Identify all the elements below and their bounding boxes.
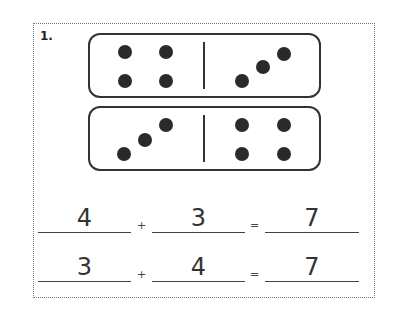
pip: [235, 147, 249, 161]
pip: [159, 45, 173, 59]
addend1-blank[interactable]: 4: [38, 204, 131, 233]
sum-blank[interactable]: 7: [265, 253, 359, 282]
equation-row-2: 3 + 4 = 7: [0, 242, 396, 282]
plus-sign: +: [137, 219, 146, 233]
pip: [118, 74, 132, 88]
plus-sign: +: [137, 268, 146, 282]
pip: [159, 118, 173, 132]
domino-divider: [203, 115, 205, 162]
pip: [138, 133, 152, 147]
sum-blank[interactable]: 7: [265, 204, 359, 233]
domino-divider: [203, 42, 205, 89]
addend2-blank[interactable]: 3: [152, 204, 245, 233]
addend1-blank[interactable]: 3: [38, 253, 131, 282]
equation-row-1: 4 + 3 = 7: [0, 193, 396, 233]
domino-1: [88, 33, 321, 98]
pip: [277, 47, 291, 61]
pip: [235, 118, 249, 132]
pip: [117, 147, 131, 161]
pip: [256, 60, 270, 74]
pip: [235, 74, 249, 88]
pip: [118, 45, 132, 59]
pip: [159, 74, 173, 88]
addend2-blank[interactable]: 4: [152, 253, 245, 282]
equals-sign: =: [250, 268, 259, 282]
pip: [277, 118, 291, 132]
domino-2: [88, 106, 321, 171]
problem-number: 1.: [40, 29, 53, 43]
equals-sign: =: [250, 219, 259, 233]
pip: [277, 147, 291, 161]
